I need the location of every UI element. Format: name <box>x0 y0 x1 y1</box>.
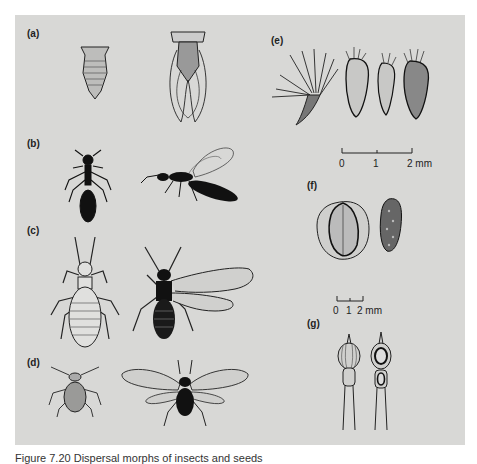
wingless-termite-illustration <box>45 235 125 350</box>
panel-label-f: (f) <box>307 180 317 191</box>
worker-ant-illustration <box>63 150 113 230</box>
winged-aphid-d-illustration <box>120 360 250 430</box>
winged-ant-illustration <box>133 143 243 213</box>
wingless-aphid-illustration <box>75 43 115 103</box>
wingless-aphid-d-illustration <box>45 365 105 420</box>
scale-e-tick-2: 2 mm <box>407 158 432 169</box>
scale-e-tick-0: 0 <box>339 158 345 169</box>
panel-label-a: (a) <box>27 28 39 39</box>
figure-panel: (a) (b) (c) (d) (e) (f) (g) <box>15 15 465 445</box>
scale-bar-f <box>335 295 365 305</box>
scale-f-tick-1: 1 <box>346 305 352 316</box>
panel-label-b: (b) <box>27 138 40 149</box>
scale-bar-e <box>340 147 415 157</box>
panel-label-d: (d) <box>27 357 40 368</box>
scale-f-tick-2: 2 mm <box>357 305 382 316</box>
fruit-stalk-illustration <box>335 330 405 440</box>
pappus-seeds-illustration <box>270 45 460 130</box>
winged-termite-illustration <box>125 245 265 345</box>
elaiosome-seeds-illustration <box>315 195 415 265</box>
scale-f-tick-0: 0 <box>333 305 339 316</box>
panel-label-c: (c) <box>27 225 39 236</box>
scale-e-tick-1: 1 <box>373 158 379 169</box>
figure-caption: Figure 7.20 Dispersal morphs of insects … <box>15 452 263 464</box>
winged-aphid-illustration <box>163 30 213 125</box>
panel-label-g: (g) <box>307 318 320 329</box>
